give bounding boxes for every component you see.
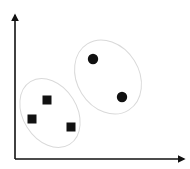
circle-marker <box>117 92 127 102</box>
square-marker <box>43 96 52 105</box>
square-cluster-ellipse <box>7 67 92 158</box>
square-marker <box>67 123 76 132</box>
data-points <box>28 54 128 132</box>
axes <box>15 15 184 159</box>
cluster-outlines <box>7 27 154 158</box>
circle-marker <box>88 54 98 64</box>
cluster-diagram <box>0 0 190 169</box>
square-marker <box>28 115 37 124</box>
circle-cluster-ellipse <box>61 27 155 126</box>
